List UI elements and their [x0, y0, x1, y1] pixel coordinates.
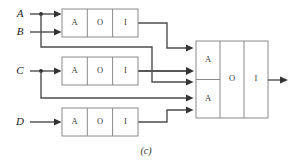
aoi-middle-cell-or: O	[97, 65, 103, 75]
aoi-top-cell-and: A	[72, 17, 79, 27]
input-label-b: B	[17, 25, 24, 37]
input-label-d: D	[15, 115, 24, 127]
input-label-a: A	[16, 7, 24, 19]
figure-canvas: A O I A O I A O I	[0, 0, 296, 165]
circuit-diagram-svg: A O I A O I A O I	[0, 0, 296, 165]
output-gate-cell-inv: I	[255, 73, 258, 83]
aoi-gate-output[interactable]: A A O I	[196, 41, 268, 118]
figure-caption: (c)	[140, 145, 152, 157]
aoi-gate-bottom[interactable]: A O I	[62, 108, 138, 136]
wire-input-b	[30, 29, 62, 36]
wire-input-d	[30, 119, 62, 126]
input-label-c: C	[16, 64, 24, 76]
aoi-middle-cell-inv: I	[124, 65, 127, 75]
wire-input-c	[30, 68, 62, 75]
aoi-top-cell-inv: I	[124, 17, 127, 27]
wire-aoi-middle-output	[138, 67, 194, 75]
aoi-bottom-cell-inv: I	[124, 116, 127, 126]
aoi-gate-middle[interactable]: A O I	[62, 57, 138, 85]
wire-circuit-output	[268, 77, 288, 84]
wire-input-a	[30, 11, 62, 18]
aoi-bottom-cell-or: O	[97, 116, 103, 126]
output-gate-cell-or: O	[229, 73, 235, 83]
aoi-bottom-cell-and: A	[72, 116, 79, 126]
aoi-gate-top[interactable]: A O I	[62, 9, 138, 37]
output-gate-cell-and-2: A	[205, 93, 212, 103]
output-gate-cell-and-1: A	[205, 54, 212, 64]
wire-aoi-bottom-output	[138, 107, 194, 123]
aoi-top-cell-or: O	[97, 17, 103, 27]
aoi-middle-cell-and: A	[72, 65, 79, 75]
